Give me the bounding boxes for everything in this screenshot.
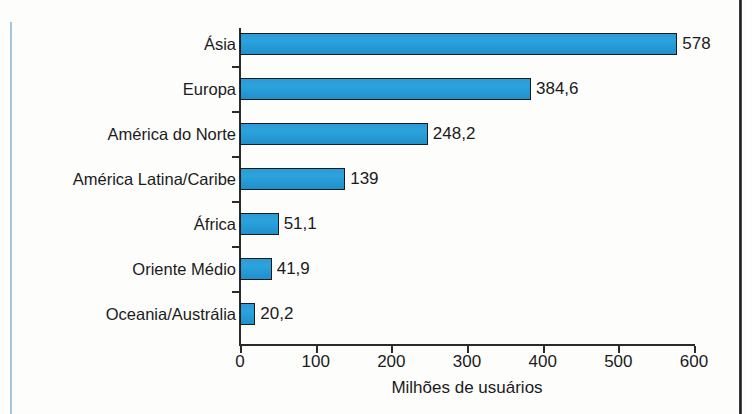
y-axis-tick bbox=[232, 66, 239, 68]
category-label: Europa bbox=[183, 78, 236, 100]
page-right-margin bbox=[747, 0, 753, 414]
category-label: Oceania/Austrália bbox=[106, 303, 236, 325]
bar-row: América Latina/Caribe139 bbox=[0, 168, 753, 213]
bar-row: Ásia578 bbox=[0, 33, 753, 78]
y-axis-tick bbox=[232, 156, 239, 158]
page-right-edge bbox=[739, 0, 742, 414]
value-label: 384,6 bbox=[536, 77, 579, 100]
x-axis-tick-label: 500 bbox=[604, 352, 632, 372]
bar-row: Oriente Médio41,9 bbox=[0, 258, 753, 303]
value-label: 41,9 bbox=[277, 257, 310, 280]
bar bbox=[240, 213, 279, 235]
value-label: 51,1 bbox=[284, 212, 317, 235]
y-axis-tick bbox=[232, 291, 239, 293]
y-axis-tick bbox=[232, 201, 239, 203]
value-label: 248,2 bbox=[433, 122, 476, 145]
x-axis-tick-label: 200 bbox=[377, 352, 405, 372]
x-axis-tick-label: 600 bbox=[680, 352, 708, 372]
x-axis-tick-label: 400 bbox=[528, 352, 556, 372]
value-label: 20,2 bbox=[260, 302, 293, 325]
bar bbox=[240, 303, 255, 325]
bar-row: América do Norte248,2 bbox=[0, 123, 753, 168]
bar bbox=[240, 168, 345, 190]
bar bbox=[240, 123, 428, 145]
value-label: 578 bbox=[682, 32, 710, 55]
y-axis-tick bbox=[232, 246, 239, 248]
x-axis-title: Milhões de usuários bbox=[240, 378, 694, 398]
category-label: Ásia bbox=[204, 33, 236, 55]
x-axis-tick-label: 100 bbox=[301, 352, 329, 372]
bar bbox=[240, 33, 677, 55]
x-axis-tick-label: 300 bbox=[453, 352, 481, 372]
chart-page: Ásia578Europa384,6América do Norte248,2A… bbox=[0, 0, 753, 414]
category-label: África bbox=[194, 213, 236, 235]
category-label: América do Norte bbox=[108, 123, 236, 145]
bar bbox=[240, 258, 272, 280]
bar-row: África51,1 bbox=[0, 213, 753, 258]
value-label: 139 bbox=[350, 167, 378, 190]
bar-chart: Ásia578Europa384,6América do Norte248,2A… bbox=[0, 0, 753, 414]
y-axis-tick bbox=[232, 111, 239, 113]
x-axis-tick-label: 0 bbox=[235, 352, 244, 372]
category-label: Oriente Médio bbox=[132, 258, 236, 280]
bar-row: Oceania/Austrália20,2 bbox=[0, 303, 753, 348]
bar bbox=[240, 78, 531, 100]
category-label: América Latina/Caribe bbox=[73, 168, 236, 190]
bar-row: Europa384,6 bbox=[0, 78, 753, 123]
